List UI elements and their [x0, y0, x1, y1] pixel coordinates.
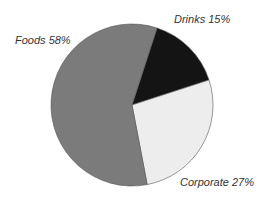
label-drinks: Drinks 15%	[174, 13, 230, 25]
label-foods: Foods 58%	[15, 34, 71, 46]
label-corporate: Corporate 27%	[180, 176, 254, 188]
